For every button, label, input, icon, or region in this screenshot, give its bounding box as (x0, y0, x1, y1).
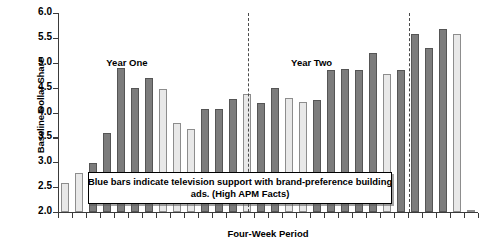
x-tick-mark (254, 213, 255, 218)
x-tick-mark (338, 213, 339, 218)
bar (61, 183, 70, 212)
x-tick-mark (58, 213, 59, 218)
x-tick-mark (436, 213, 437, 218)
y-tick-label-6.0: 6.0 (26, 7, 52, 17)
y-tick-mark-4.5 (53, 88, 58, 89)
x-tick-mark (422, 213, 423, 218)
x-tick-mark (156, 213, 157, 218)
x-tick-mark (394, 213, 395, 218)
x-tick-mark (408, 213, 409, 218)
x-tick-mark (296, 213, 297, 218)
bar (75, 173, 84, 212)
x-tick-mark (366, 213, 367, 218)
x-tick-mark (380, 213, 381, 218)
y-tick-label-4.0: 4.0 (26, 107, 52, 117)
y-tick-mark-5.5 (53, 38, 58, 39)
x-tick-mark (198, 213, 199, 218)
y-tick-label-3.5: 3.5 (26, 131, 52, 141)
bar (439, 29, 448, 212)
y-tick-label-2.0: 2.0 (26, 206, 52, 216)
legend-callout: Blue bars indicate television support wi… (88, 172, 392, 204)
y-tick-label-5.0: 5.0 (26, 57, 52, 67)
x-tick-mark (184, 213, 185, 218)
x-tick-mark (100, 213, 101, 218)
legend-callout-line-1: Blue bars indicate television support wi… (88, 176, 392, 189)
x-tick-mark (212, 213, 213, 218)
x-tick-mark (450, 213, 451, 218)
year-two-label: Year Two (291, 57, 332, 68)
y-tick-label-4.5: 4.5 (26, 82, 52, 92)
y-tick-mark-3.0 (53, 162, 58, 163)
legend-callout-line-2: ads. (High APM Facts) (191, 188, 290, 201)
x-tick-mark (226, 213, 227, 218)
x-tick-mark (240, 213, 241, 218)
x-tick-mark (282, 213, 283, 218)
y-tick-mark-4.0 (53, 113, 58, 114)
y-tick-mark-3.5 (53, 137, 58, 138)
y-tick-label-3.0: 3.0 (26, 156, 52, 166)
y-tick-label-5.5: 5.5 (26, 32, 52, 42)
x-tick-mark (464, 213, 465, 218)
x-tick-mark (86, 213, 87, 218)
y-tick-mark-2.5 (53, 187, 58, 188)
x-tick-mark (128, 213, 129, 218)
x-tick-mark (72, 213, 73, 218)
bar-chart: Baseline Dollar Share 6.05.55.04.54.03.5… (0, 0, 484, 248)
bar (453, 34, 462, 212)
y-tick-mark-6.0 (53, 13, 58, 14)
bar (467, 210, 476, 212)
year-two-end-divider (409, 13, 410, 212)
x-tick-mark (478, 213, 479, 218)
x-tick-mark (170, 213, 171, 218)
y-tick-mark-5.0 (53, 63, 58, 64)
x-tick-mark (268, 213, 269, 218)
bar (397, 70, 406, 212)
x-axis-title: Four-Week Period (58, 228, 478, 239)
x-tick-mark (114, 213, 115, 218)
x-tick-mark (324, 213, 325, 218)
year-one-label: Year One (106, 57, 147, 68)
y-axis-tick-labels: 6.05.55.04.54.03.53.02.52.0 (22, 0, 52, 248)
bar (411, 34, 420, 212)
x-tick-mark (142, 213, 143, 218)
x-tick-mark (352, 213, 353, 218)
x-tick-mark (310, 213, 311, 218)
y-tick-label-2.5: 2.5 (26, 181, 52, 191)
bar (425, 48, 434, 212)
